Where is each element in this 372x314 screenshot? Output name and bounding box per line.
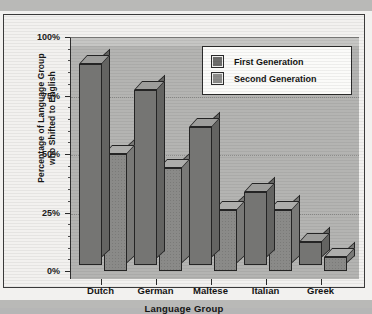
legend-label-first-generation: First Generation bbox=[234, 57, 304, 67]
y-axis-label-75: 75% bbox=[42, 91, 60, 101]
legend-swatch-first-generation bbox=[211, 55, 224, 68]
bar-side-face bbox=[102, 49, 110, 257]
bar-italian-first-generation bbox=[244, 192, 267, 265]
bar-german-first-generation bbox=[134, 90, 157, 266]
legend: First Generation Second Generation bbox=[202, 46, 352, 95]
y-axis-title: Percentage of Language Group who Shifted… bbox=[36, 33, 58, 203]
bar-side-face bbox=[212, 112, 220, 257]
chart-frame: Percentage of Language Group who Shifted… bbox=[3, 14, 365, 288]
legend-swatch-second-generation bbox=[211, 72, 224, 85]
x-axis-title: Language Group bbox=[4, 303, 364, 314]
bar-front-face bbox=[189, 127, 212, 265]
x-axis-label-german: German bbox=[138, 285, 174, 296]
x-axis-label-greek: Greek bbox=[307, 285, 334, 296]
x-axis-label-dutch: Dutch bbox=[87, 285, 114, 296]
bar-front-face bbox=[299, 242, 322, 265]
legend-item-first-generation: First Generation bbox=[211, 53, 343, 70]
legend-label-second-generation: Second Generation bbox=[234, 74, 317, 84]
bar-front-face bbox=[79, 64, 102, 265]
bar-front-face bbox=[134, 90, 157, 266]
bar-side-face bbox=[182, 153, 190, 263]
plot-top-face bbox=[71, 38, 359, 46]
bar-dutch-first-generation bbox=[79, 64, 102, 265]
y-axis-label-100: 100% bbox=[37, 32, 60, 42]
x-axis-label-italian: Italian bbox=[252, 285, 279, 296]
legend-item-second-generation: Second Generation bbox=[211, 70, 343, 87]
bar-greek-first-generation bbox=[299, 242, 322, 265]
bar-side-face bbox=[127, 139, 135, 263]
bar-front-face bbox=[244, 192, 267, 265]
y-axis-title-line2: who Shifted to English bbox=[47, 33, 58, 203]
x-axis-label-maltese: Maltese bbox=[193, 285, 228, 296]
gridline-75 bbox=[71, 97, 359, 98]
y-axis-label-25: 25% bbox=[42, 208, 60, 218]
bar-front-face bbox=[324, 257, 347, 271]
y-axis-label-50: 50% bbox=[42, 149, 60, 159]
bar-maltese-first-generation bbox=[189, 127, 212, 265]
y-axis-label-0: 0% bbox=[47, 266, 60, 276]
y-axis-title-line1: Percentage of Language Group bbox=[36, 33, 47, 203]
bar-side-face bbox=[157, 74, 165, 257]
bar-greek-second-generation bbox=[324, 257, 347, 271]
